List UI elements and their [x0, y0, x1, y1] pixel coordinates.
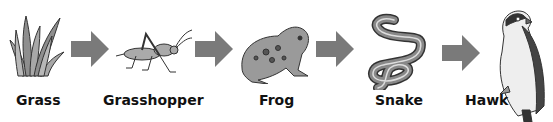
snake-icon: [360, 10, 432, 90]
organism-label: Hawk: [465, 92, 508, 108]
arrow-icon: [442, 35, 480, 71]
organism-label: Frog: [259, 92, 294, 108]
arrow-icon: [195, 31, 233, 67]
arrow-icon: [71, 31, 109, 67]
grasshopper-icon: [112, 26, 192, 76]
grass-icon: [8, 8, 66, 78]
frog-icon: [238, 18, 313, 84]
arrow-icon: [316, 31, 354, 67]
organism-label: Grass: [16, 92, 61, 108]
organism-label: Grasshopper: [103, 92, 204, 108]
organism-label: Snake: [375, 92, 423, 108]
